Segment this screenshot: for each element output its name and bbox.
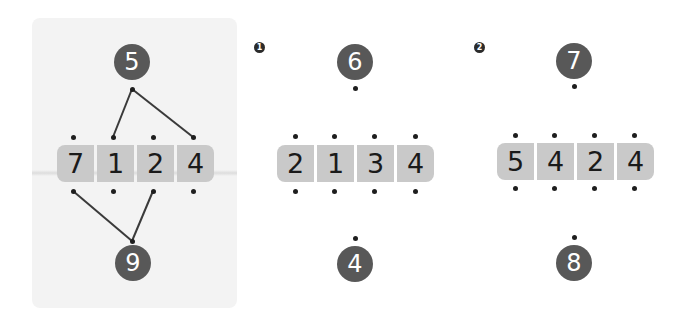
digit-cell: 2 <box>137 145 174 182</box>
problem-1-dot-bottom-4[interactable] <box>413 189 418 194</box>
example-dot-bottom-3 <box>151 189 156 194</box>
problem-1-bottom-number: 4 <box>337 246 373 282</box>
digit-cell: 4 <box>617 143 654 180</box>
problem-1-dot-bottom-2[interactable] <box>332 189 337 194</box>
example-dot-bottom-2 <box>111 189 116 194</box>
problem-1-top-number: 6 <box>337 44 373 80</box>
problem-1-dot-bottom-3[interactable] <box>372 189 377 194</box>
problem-1-dot-top-3[interactable] <box>372 134 377 139</box>
problem-1-dot-top-2[interactable] <box>332 134 337 139</box>
example-dot-bottom-4 <box>191 189 196 194</box>
digit-cell: 4 <box>177 145 214 182</box>
example-dot-top-2 <box>111 135 116 140</box>
example-dot-top-3 <box>151 135 156 140</box>
example-digit-strip: 7 1 2 4 <box>57 145 214 182</box>
problem-2-dot-top-3[interactable] <box>592 133 597 138</box>
digit-cell: 4 <box>397 145 434 182</box>
digit-cell: 5 <box>497 143 534 180</box>
problem-2-digit-strip: 5 4 2 4 <box>497 143 654 180</box>
example-bottom-number: 9 <box>115 245 151 281</box>
problem-2-dot-top-1[interactable] <box>513 133 518 138</box>
problem-1-bottom-dot[interactable] <box>353 236 358 241</box>
digit-cell: 2 <box>577 143 614 180</box>
problem-2-dot-bottom-4[interactable] <box>632 186 637 191</box>
example-dot-top-1 <box>71 135 76 140</box>
example-bottom-dot <box>130 239 135 244</box>
problem-1-digit-strip: 2 1 3 4 <box>277 145 434 182</box>
problem-1-dot-top-4[interactable] <box>413 134 418 139</box>
problem-2-dot-top-2[interactable] <box>552 133 557 138</box>
digit-cell: 1 <box>317 145 354 182</box>
problem-2-top-dot[interactable] <box>572 84 577 89</box>
example-dot-bottom-1 <box>71 189 76 194</box>
digit-cell: 7 <box>57 145 94 182</box>
problem-2-dot-bottom-3[interactable] <box>592 186 597 191</box>
problem-2-dot-bottom-1[interactable] <box>513 186 518 191</box>
problem-2-bottom-dot[interactable] <box>572 235 577 240</box>
problem-1-dot-top-1[interactable] <box>293 134 298 139</box>
digit-cell: 1 <box>97 145 134 182</box>
problem-2-dot-bottom-2[interactable] <box>552 186 557 191</box>
problem-2-badge: 2 <box>474 42 485 53</box>
example-dot-top-4 <box>191 135 196 140</box>
problem-1-badge: 1 <box>254 42 265 53</box>
example-top-number: 5 <box>114 44 150 80</box>
problem-1-dot-bottom-1[interactable] <box>293 189 298 194</box>
digit-cell: 4 <box>537 143 574 180</box>
problem-1-top-dot[interactable] <box>353 86 358 91</box>
example-top-dot <box>130 87 135 92</box>
problem-2-bottom-number: 8 <box>556 245 592 281</box>
digit-cell: 2 <box>277 145 314 182</box>
problem-2-top-number: 7 <box>556 43 592 79</box>
problem-2-dot-top-4[interactable] <box>632 133 637 138</box>
digit-cell: 3 <box>357 145 394 182</box>
